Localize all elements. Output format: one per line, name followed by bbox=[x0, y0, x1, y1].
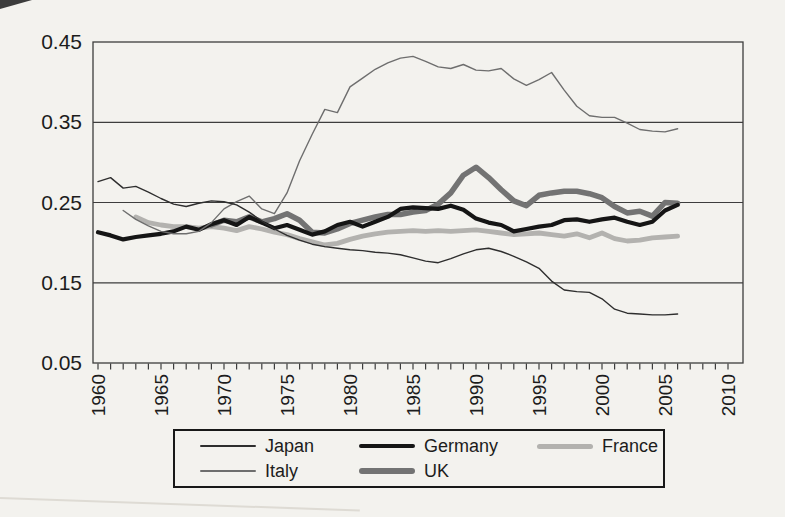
y-tick-label: 0.35 bbox=[41, 110, 82, 133]
y-tick-label: 0.05 bbox=[41, 351, 82, 374]
x-tick-label: 1995 bbox=[529, 374, 550, 416]
x-tick-label: 2010 bbox=[718, 374, 739, 416]
legend-label-germany: Germany bbox=[424, 436, 498, 457]
scanned-chart-page: 1960196519701975198019851990199520002005… bbox=[0, 0, 785, 517]
y-axis-labels: 0.050.150.250.350.45 bbox=[41, 30, 82, 374]
legend-label-japan: Japan bbox=[265, 436, 314, 457]
legend-entry-italy: Italy bbox=[200, 461, 359, 482]
legend-label-italy: Italy bbox=[265, 461, 298, 482]
x-tick-label: 1960 bbox=[88, 374, 109, 416]
y-tick-label: 0.15 bbox=[41, 271, 82, 294]
y-tick-label: 0.25 bbox=[41, 191, 82, 214]
legend-entry-germany: Germany bbox=[359, 436, 537, 457]
legend-row: JapanGermanyFrance bbox=[200, 434, 663, 459]
legend-entry-japan: Japan bbox=[200, 436, 359, 457]
x-tick-label: 1970 bbox=[214, 374, 235, 416]
x-tick-label: 1985 bbox=[403, 374, 424, 416]
legend-entry-france: France bbox=[537, 436, 663, 457]
series-line-uk bbox=[211, 167, 677, 233]
legend-swatch-uk bbox=[359, 468, 415, 474]
chart-legend: JapanGermanyFranceItalyUK bbox=[173, 429, 665, 488]
legend-label-france: France bbox=[602, 436, 658, 457]
series-line-japan bbox=[98, 178, 678, 315]
legend-swatch-germany bbox=[359, 444, 415, 448]
x-tick-label: 2000 bbox=[592, 374, 613, 416]
x-tick-label: 1980 bbox=[340, 374, 361, 416]
x-axis-ticks bbox=[98, 364, 728, 370]
x-axis-labels: 1960196519701975198019851990199520002005… bbox=[88, 374, 739, 416]
x-tick-label: 1975 bbox=[277, 374, 298, 416]
legend-swatch-japan bbox=[200, 445, 256, 447]
x-tick-label: 2005 bbox=[655, 374, 676, 416]
x-tick-label: 1990 bbox=[466, 374, 487, 416]
x-tick-label: 1965 bbox=[151, 374, 172, 416]
legend-row: ItalyUK bbox=[200, 459, 663, 484]
legend-label-uk: UK bbox=[424, 461, 449, 482]
legend-swatch-italy bbox=[200, 470, 256, 472]
y-tick-label: 0.45 bbox=[41, 30, 82, 53]
legend-entry-uk: UK bbox=[359, 461, 537, 482]
legend-swatch-france bbox=[537, 444, 593, 449]
